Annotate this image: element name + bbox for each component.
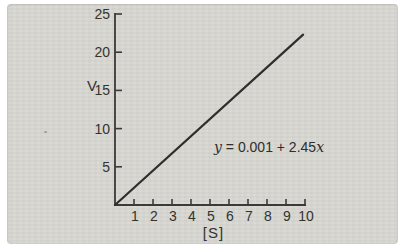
x-tick-label: 1: [131, 208, 139, 224]
equation-annotation: y = 0.001 + 2.45x: [214, 139, 324, 155]
x-tick-label: 7: [245, 208, 253, 224]
equation-y-variable: y: [214, 139, 222, 155]
line-chart: 51015202512345678910: [0, 0, 402, 252]
x-tick-label: 2: [150, 208, 158, 224]
y-tick-label: 25: [94, 6, 110, 22]
y-axis-label: V: [80, 77, 104, 94]
data-line-fitted-line: [115, 35, 303, 205]
x-tick-label: 3: [169, 208, 177, 224]
x-tick-label: 6: [226, 208, 234, 224]
axes-line: [115, 13, 306, 205]
y-tick-label: 10: [94, 121, 110, 137]
equation-middle: = 0.001 + 2.45: [222, 139, 316, 155]
x-axis-label: [S]: [193, 224, 234, 241]
x-tick-label: 9: [283, 208, 291, 224]
x-tick-label: 8: [264, 208, 272, 224]
y-tick-label: 20: [94, 44, 110, 60]
y-tick-label: 5: [102, 159, 110, 175]
x-tick-label: 10: [298, 208, 314, 224]
x-tick-label: 4: [188, 208, 196, 224]
x-tick-label: 5: [207, 208, 215, 224]
equation-x-variable: x: [316, 139, 324, 155]
